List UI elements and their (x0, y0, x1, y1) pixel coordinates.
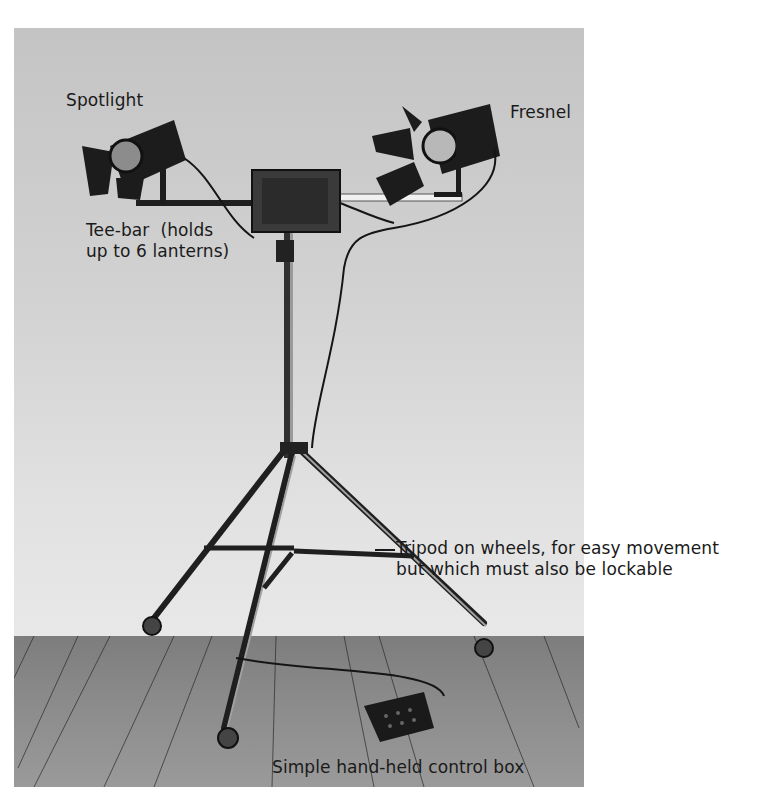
label-fresnel: Fresnel (510, 102, 571, 123)
tripod-leg-highlights (227, 450, 486, 730)
tripod-braces (204, 548, 414, 588)
caster-wheels (143, 617, 493, 748)
tripod-leader-line (375, 549, 395, 551)
label-tee-bar-line2: up to 6 lanterns) (86, 241, 229, 262)
label-tee-bar-line1: Tee-bar (holds (86, 220, 229, 241)
label-control-box: Simple hand-held control box (272, 757, 524, 778)
stand-pole (276, 228, 294, 458)
lighting-rig-illustration (14, 28, 584, 787)
label-tripod-line2: but which must also be lockable (396, 559, 719, 580)
tripod-hub (280, 442, 308, 454)
dimmer-pack (252, 170, 340, 232)
photograph (14, 28, 584, 787)
control-box (364, 692, 434, 742)
label-spotlight: Spotlight (66, 90, 143, 111)
spotlight-lantern (82, 120, 186, 204)
label-tripod: Tripod on wheels, for easy movement but … (396, 538, 719, 580)
label-tee-bar: Tee-bar (holds up to 6 lanterns) (86, 220, 229, 262)
label-tripod-line1: Tripod on wheels, for easy movement (396, 538, 719, 559)
